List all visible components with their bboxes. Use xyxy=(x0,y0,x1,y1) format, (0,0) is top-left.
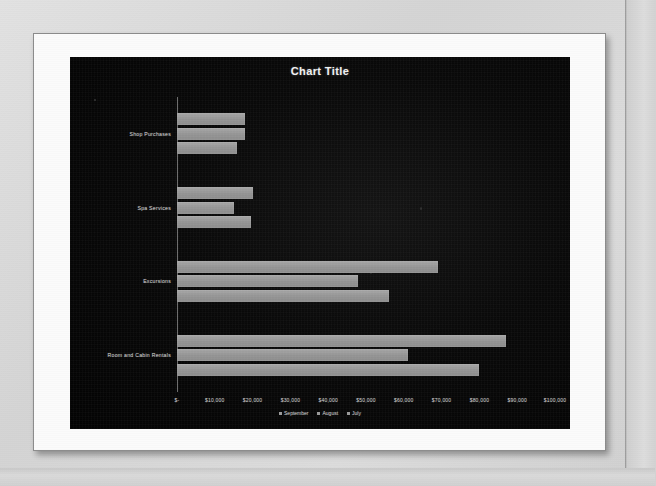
value-axis-tick: $60,000 xyxy=(394,397,413,403)
presentation-slide: Chart Title Shop PurchasesSpa ServicesEx… xyxy=(33,33,606,451)
bar-july[interactable] xyxy=(177,216,251,228)
value-axis-tick: $100,000 xyxy=(544,397,566,403)
category-axis-label: Room and Cabin Rentals xyxy=(108,352,171,358)
legend-label: September xyxy=(284,410,308,416)
page-bottom-edge xyxy=(0,468,655,486)
page-right-edge xyxy=(625,0,656,486)
image-speck xyxy=(94,99,96,101)
value-axis-tick: $40,000 xyxy=(318,397,337,403)
bar-july[interactable] xyxy=(177,142,237,154)
category-group: Spa Services xyxy=(177,171,555,245)
bar-august[interactable] xyxy=(177,349,408,361)
bar-july[interactable] xyxy=(177,364,479,376)
bar-august[interactable] xyxy=(177,128,245,140)
bar-september[interactable] xyxy=(177,335,506,347)
value-axis-tick: $- xyxy=(175,397,180,403)
legend-swatch-icon xyxy=(317,412,320,415)
chart-legend: SeptemberAugustJuly xyxy=(70,410,570,420)
value-axis-tick: $50,000 xyxy=(356,397,375,403)
legend-swatch-icon xyxy=(279,412,282,415)
value-axis-tick: $10,000 xyxy=(205,397,224,403)
bar-september[interactable] xyxy=(177,113,245,125)
value-axis-tick: $30,000 xyxy=(281,397,300,403)
category-axis-label: Shop Purchases xyxy=(129,131,171,137)
bar-july[interactable] xyxy=(177,290,389,302)
value-axis-tick: $80,000 xyxy=(470,397,489,403)
bar-september[interactable] xyxy=(177,187,253,199)
bar-september[interactable] xyxy=(177,261,438,273)
category-group: Excursions xyxy=(177,245,555,319)
legend-swatch-icon xyxy=(347,412,350,415)
value-axis-tick: $90,000 xyxy=(507,397,526,403)
bar-august[interactable] xyxy=(177,202,234,214)
value-axis-tick: $20,000 xyxy=(243,397,262,403)
legend-item[interactable]: July xyxy=(347,410,361,416)
category-group: Shop Purchases xyxy=(177,97,555,171)
category-group: Room and Cabin Rentals xyxy=(177,318,555,392)
legend-label: July xyxy=(352,410,361,416)
category-axis-label: Excursions xyxy=(143,278,171,284)
bar-august[interactable] xyxy=(177,275,358,287)
chart-canvas: Chart Title Shop PurchasesSpa ServicesEx… xyxy=(70,57,570,429)
value-axis-tick: $70,000 xyxy=(432,397,451,403)
chart-title: Chart Title xyxy=(70,65,570,77)
legend-label: August xyxy=(322,410,338,416)
plot-area: Shop PurchasesSpa ServicesExcursionsRoom… xyxy=(177,97,555,392)
legend-item[interactable]: August xyxy=(317,410,338,416)
legend-item[interactable]: September xyxy=(279,410,308,416)
category-axis-label: Spa Services xyxy=(137,205,171,211)
